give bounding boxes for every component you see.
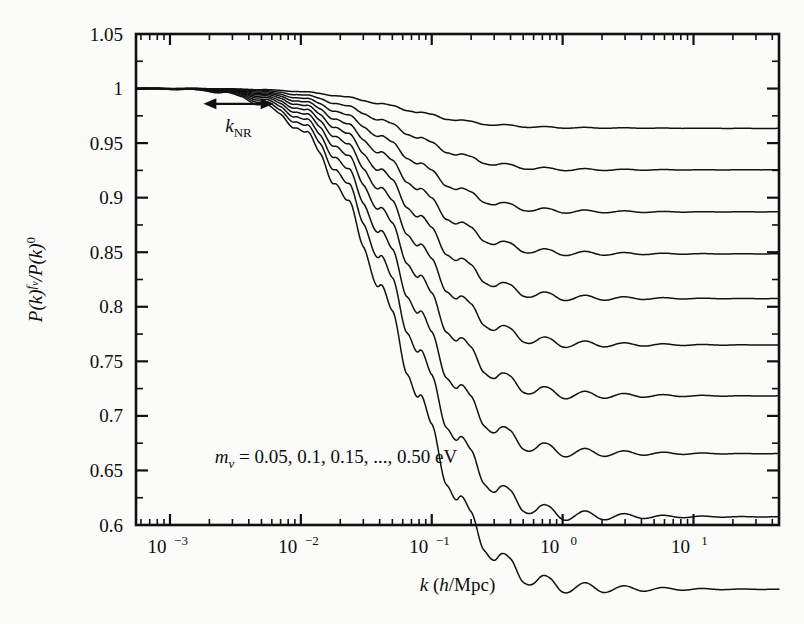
y-tick-label: 0.75 — [90, 351, 123, 372]
figure-container: 1.0510.950.90.850.80.750.70.650.610−310−… — [0, 0, 804, 624]
svg-text:P(k)fv/P(k)0: P(k)fv/P(k)0 — [23, 237, 47, 323]
y-tick-label: 1 — [114, 78, 124, 99]
y-tick-label: 0.7 — [99, 405, 123, 426]
x-tick-mantissa: 10 — [409, 536, 428, 557]
x-tick-mantissa: 10 — [540, 536, 559, 557]
x-tick-mantissa: 10 — [671, 536, 690, 557]
x-tick-exponent: −3 — [174, 533, 188, 548]
x-axis-title: k (h/Mpc) — [420, 574, 495, 596]
x-tick-exponent: 1 — [701, 533, 708, 548]
y-tick-label: 0.95 — [90, 133, 123, 154]
x-tick-mantissa: 10 — [147, 536, 166, 557]
y-tick-label: 0.65 — [90, 460, 123, 481]
y-axis-title: P(k)fv/P(k)0 — [23, 237, 47, 323]
x-tick-exponent: 0 — [570, 533, 577, 548]
y-tick-label: 0.6 — [99, 515, 123, 536]
power-spectrum-ratio-chart: 1.0510.950.90.850.80.750.70.650.610−310−… — [0, 0, 804, 624]
y-tick-label: 0.8 — [99, 296, 123, 317]
y-tick-label: 1.05 — [90, 24, 123, 45]
x-tick-mantissa: 10 — [278, 536, 297, 557]
x-tick-exponent: −1 — [436, 533, 450, 548]
svg-text:k (h/Mpc): k (h/Mpc) — [420, 574, 495, 596]
y-tick-label: 0.9 — [99, 187, 123, 208]
y-tick-label: 0.85 — [90, 242, 123, 263]
x-tick-exponent: −2 — [305, 533, 319, 548]
